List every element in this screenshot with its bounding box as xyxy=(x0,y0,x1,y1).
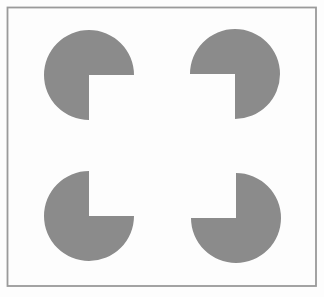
kanizsa-square-figure xyxy=(0,0,324,297)
pacman-bottom-left xyxy=(44,171,134,261)
pacman-top-left xyxy=(44,30,134,120)
pacman-bottom-right xyxy=(191,173,281,263)
pacman-top-right xyxy=(190,29,280,119)
figure-canvas xyxy=(0,0,324,297)
